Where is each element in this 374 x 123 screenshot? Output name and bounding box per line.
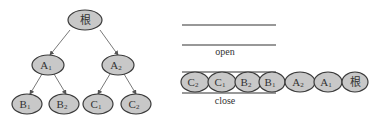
close-item-a1: A1 xyxy=(314,72,342,92)
tree-node-a1: A1 xyxy=(32,55,64,75)
edge-root-a1 xyxy=(50,30,70,55)
tree-node-root: 根 xyxy=(68,10,102,30)
svg-text:根: 根 xyxy=(350,75,361,88)
open-label: open xyxy=(215,46,234,57)
close-item-c2: C2 xyxy=(181,72,209,92)
tree-node-b1: B1 xyxy=(12,94,42,114)
close-item-root: 根 xyxy=(342,72,368,92)
edge-a1-b2 xyxy=(54,74,66,94)
close-label: close xyxy=(215,95,236,106)
edge-a2-c2 xyxy=(124,74,136,94)
edge-a1-b1 xyxy=(30,74,42,94)
tree-node-c1: C1 xyxy=(83,94,113,114)
diagram-canvas: 根 A1 A2 B1 B2 C1 C2 open close C2 xyxy=(0,0,374,123)
edge-a2-c1 xyxy=(98,74,110,94)
close-item-c1: C1 xyxy=(208,72,236,92)
tree-node-c2: C2 xyxy=(121,94,151,114)
node-label: 根 xyxy=(80,13,91,26)
close-item-b2: B2 xyxy=(235,72,261,92)
tree-node-a2: A2 xyxy=(102,55,134,75)
close-item-b1: B1 xyxy=(259,72,285,92)
tree-node-b2: B2 xyxy=(49,94,79,114)
edge-root-a2 xyxy=(100,30,118,55)
open-list: open xyxy=(182,25,276,57)
close-item-a2: A2 xyxy=(285,72,315,92)
